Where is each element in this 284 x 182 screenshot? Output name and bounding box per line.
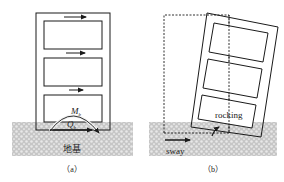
tilted-storey-3 (209, 23, 268, 62)
ground-label: 地基 (63, 143, 81, 154)
tilted-storey-2 (203, 59, 262, 98)
storey-panel-3 (44, 21, 102, 49)
rocking-label: rocking (215, 110, 243, 120)
caption-b: （b） (203, 165, 223, 174)
panel-a: Mb Qb 地基 （a） (12, 13, 133, 174)
soil-structure-interaction-diagram: Mb Qb 地基 （a） rocking sway （b） (0, 0, 284, 182)
storey-panel-2 (44, 58, 102, 86)
caption-a: （a） (62, 165, 82, 174)
panel-b: rocking sway （b） (149, 13, 278, 174)
sway-label: sway (166, 146, 185, 156)
